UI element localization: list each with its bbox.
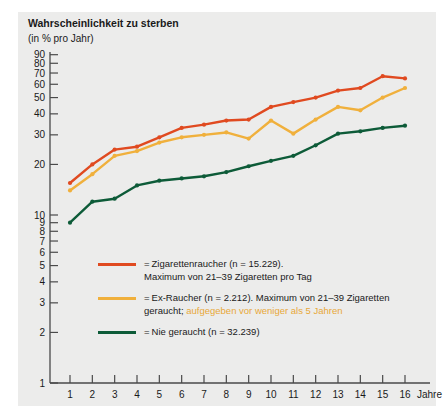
y-axis-tick-label: 4 [39,276,45,287]
legend-equals-sign: = [144,326,150,337]
data-point [180,126,184,130]
y-axis-tick-label: 40 [34,108,46,119]
series-line-ex-raucher [70,88,405,190]
legend-label: =Ex-Raucher (n = 2.212). Maximum von 21–… [144,292,428,317]
data-point [113,154,117,158]
data-point [269,118,273,122]
x-axis-tick-label: 15 [377,389,389,400]
data-point [68,181,72,185]
data-point [314,95,318,99]
legend-line-1: Ex-Raucher (n = 2.212). Maximum von 21–3… [152,292,390,303]
legend-item-zigarettenraucher[interactable]: =Zigarettenraucher (n = 15.229).Maximum … [98,258,428,283]
y-axis-tick-label: 3 [39,297,45,308]
data-point [68,188,72,192]
data-point [269,159,273,163]
data-point [135,145,139,149]
x-axis-tick-label: 14 [355,389,367,400]
data-point [247,164,251,168]
data-point [157,135,161,139]
data-point [157,179,161,183]
data-point [269,105,273,109]
data-point [247,136,251,140]
data-point [202,174,206,178]
legend-line-1: Zigarettenraucher (n = 15.229). [152,258,284,269]
data-point [336,105,340,109]
data-point [336,89,340,93]
data-point [113,197,117,201]
legend-color-swatch [98,297,136,300]
y-axis-tick-label: 20 [34,159,46,170]
data-point [113,148,117,152]
y-axis-ticks: 908070605040302010987654321 [34,49,58,388]
legend-equals-sign: = [144,292,150,303]
data-point [291,100,295,104]
legend-item-nie-geraucht[interactable]: =Nie geraucht (n = 32.239) [98,326,428,348]
y-axis-tick-label: 6 [39,247,45,258]
x-axis-tick-label: 10 [265,389,277,400]
x-axis-tick-label: 7 [201,389,207,400]
x-axis-tick-label: 13 [332,389,344,400]
data-point [90,172,94,176]
data-point [135,149,139,153]
data-point [381,74,385,78]
chart-legend: =Zigarettenraucher (n = 15.229).Maximum … [98,258,428,357]
legend-label: =Nie geraucht (n = 32.239) [144,326,428,339]
x-axis-tick-label: 9 [246,389,252,400]
y-axis-tick-label: 60 [34,79,46,90]
y-axis-tick-label: 2 [39,327,45,338]
y-axis-tick-label: 50 [34,92,46,103]
x-axis-tick-label: 3 [112,389,118,400]
x-axis-tick-label: 6 [179,389,185,400]
x-axis-unit-label: Jahre [417,389,442,400]
data-point [336,132,340,136]
x-axis-tick-label: 1 [67,389,73,400]
data-point [180,135,184,139]
data-point [403,124,407,128]
legend-line-1: Nie geraucht (n = 32.239) [152,326,260,337]
x-axis-tick-label: 5 [157,389,163,400]
legend-color-swatch [98,331,136,334]
y-axis-tick-label: 30 [34,129,46,140]
legend-label: =Zigarettenraucher (n = 15.229).Maximum … [144,258,428,283]
y-axis-tick-label: 1 [39,378,45,389]
chart-plot-area: 908070605040302010987654321 123456789101… [0,0,447,420]
legend-line-2: Maximum von 21–39 Zigaretten pro Tag [144,271,312,282]
data-series-group [68,74,407,225]
x-axis-tick-label: 12 [310,389,322,400]
x-axis-tick-label: 11 [288,389,299,400]
data-point [224,170,228,174]
legend-line-2-highlight: aufgegeben vor weniger als 5 Jahren [186,305,342,316]
x-axis-tick-label: 16 [399,389,411,400]
legend-color-swatch [98,263,136,266]
data-point [403,86,407,90]
legend-item-ex-raucher[interactable]: =Ex-Raucher (n = 2.212). Maximum von 21–… [98,292,428,317]
x-axis-tick-label: 2 [90,389,96,400]
y-axis-tick-label: 7 [39,236,45,247]
data-point [358,129,362,133]
y-axis-tick-label: 70 [34,68,46,79]
data-point [224,118,228,122]
series-line-zigarettenraucher [70,76,405,183]
data-point [381,95,385,99]
x-axis-tick-label: 8 [224,389,230,400]
data-point [291,154,295,158]
chart-figure: Wahrscheinlichkeit zu sterben (in % pro … [0,0,447,420]
data-point [202,123,206,127]
data-point [358,86,362,90]
y-axis-tick-label: 5 [39,260,45,271]
data-point [180,176,184,180]
data-point [247,117,251,121]
data-point [358,108,362,112]
legend-equals-sign: = [144,258,150,269]
x-axis-ticks: 12345678910111213141516 [67,375,411,400]
data-point [314,143,318,147]
data-point [135,183,139,187]
data-point [202,133,206,137]
data-point [381,126,385,130]
data-point [68,221,72,225]
data-point [291,132,295,136]
series-line-nie-geraucht [70,126,405,223]
x-axis-tick-label: 4 [134,389,140,400]
data-point [157,140,161,144]
data-point [90,162,94,166]
